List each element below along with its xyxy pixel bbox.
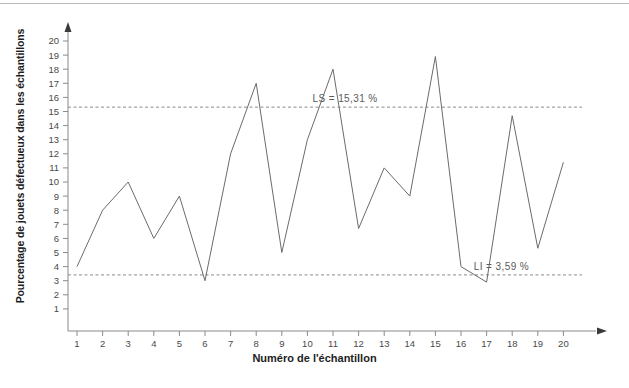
- lower-control-limit-label: LI = 3,59 %: [474, 261, 529, 272]
- y-axis-tick-label: 8: [54, 205, 59, 216]
- x-axis-tick-label: 15: [430, 338, 441, 349]
- y-axis-tick-label: 20: [48, 35, 59, 46]
- x-axis-tick-label: 4: [151, 338, 156, 349]
- y-axis-arrow-icon: [65, 22, 72, 32]
- y-axis-tick-label: 10: [48, 176, 59, 187]
- y-axis-tick-label: 12: [48, 148, 59, 159]
- x-axis-tick-label: 12: [353, 338, 364, 349]
- y-axis-tick-label: 17: [48, 78, 59, 89]
- y-axis-tick-label: 18: [48, 64, 59, 75]
- x-axis-tick-label: 1: [74, 338, 79, 349]
- x-axis-tick-label: 8: [254, 338, 259, 349]
- x-axis-arrow-icon: [597, 328, 607, 335]
- x-axis-tick-label: 3: [126, 338, 131, 349]
- y-axis-tick-label: 1: [54, 303, 59, 314]
- x-axis-tick-label: 6: [202, 338, 207, 349]
- chart-plot-area: 1234567891011121314151617181920123456789…: [0, 0, 629, 388]
- x-axis-tick-label: 7: [228, 338, 233, 349]
- y-axis-tick-label: 5: [54, 247, 59, 258]
- y-axis-tick-label: 9: [54, 191, 59, 202]
- y-axis-tick-label: 14: [48, 120, 59, 131]
- x-axis-tick-label: 9: [279, 338, 284, 349]
- y-axis-tick-label: 2: [54, 289, 59, 300]
- x-axis-tick-label: 2: [100, 338, 105, 349]
- x-axis-tick-label: 17: [481, 338, 492, 349]
- y-axis-tick-label: 6: [54, 233, 59, 244]
- x-axis-tick-label: 20: [558, 338, 569, 349]
- data-series-line: [77, 57, 563, 283]
- x-axis-tick-label: 5: [177, 338, 182, 349]
- x-axis-tick-label: 16: [456, 338, 467, 349]
- y-axis-tick-label: 13: [48, 134, 59, 145]
- x-axis-tick-label: 18: [507, 338, 518, 349]
- y-axis-tick-label: 11: [49, 162, 59, 173]
- y-axis-tick-label: 16: [48, 92, 59, 103]
- x-axis-tick-label: 19: [533, 338, 544, 349]
- y-axis-tick-label: 15: [48, 106, 59, 117]
- x-axis-tick-label: 10: [302, 338, 313, 349]
- x-axis-tick-label: 14: [405, 338, 416, 349]
- y-axis-tick-label: 7: [54, 219, 59, 230]
- x-axis-tick-label: 11: [328, 338, 338, 349]
- x-axis-tick-label: 13: [379, 338, 390, 349]
- y-axis-tick-label: 19: [48, 50, 59, 61]
- chart-figure: Pourcentage de jouets défectueux dans le…: [0, 0, 629, 388]
- y-axis-tick-label: 3: [54, 275, 59, 286]
- y-axis-tick-label: 4: [54, 261, 59, 272]
